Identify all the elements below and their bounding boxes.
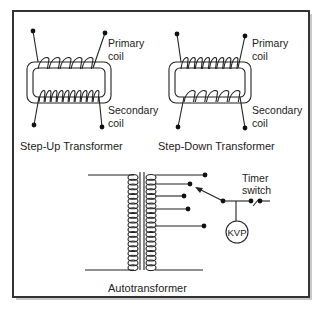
transformer-diagram: Primary coil Secondary coil Step-Up Tran… [0, 0, 320, 314]
tap-dot [203, 173, 208, 178]
secondary-coil-label: Secondary [108, 104, 159, 116]
terminal-dot [243, 34, 248, 39]
terminal-dot [243, 126, 248, 131]
tap-dot [202, 224, 207, 229]
timer-switch-label: switch [242, 184, 271, 196]
primary-coil-label: Primary [252, 37, 289, 49]
step-up-caption: Step-Up Transformer [20, 140, 123, 152]
tap-dot [186, 207, 191, 212]
tap-dot [188, 182, 193, 187]
kvp-meter-label: KVP [227, 227, 246, 238]
primary-coil-label: coil [108, 50, 124, 62]
timer-switch-contact [249, 199, 254, 204]
primary-coil-label: coil [252, 50, 268, 62]
terminal-dot [32, 123, 37, 128]
timer-switch-contact [258, 199, 263, 204]
terminal-dot [103, 31, 108, 36]
terminal-dot [175, 32, 180, 37]
terminal-dot [100, 125, 105, 130]
step-down-caption: Step-Down Transformer [158, 140, 275, 152]
primary-coil-label: Primary [108, 37, 145, 49]
secondary-coil-label: Secondary [252, 104, 303, 116]
terminal-dot [31, 29, 36, 34]
secondary-coil-label: coil [108, 117, 124, 129]
junction-dot [221, 199, 226, 204]
terminal-dot [176, 125, 181, 130]
tap-dot [182, 194, 187, 199]
timer-switch-label: Timer [242, 172, 269, 184]
secondary-coil-label: coil [252, 117, 268, 129]
autotransformer-caption: Autotransformer [108, 282, 187, 294]
